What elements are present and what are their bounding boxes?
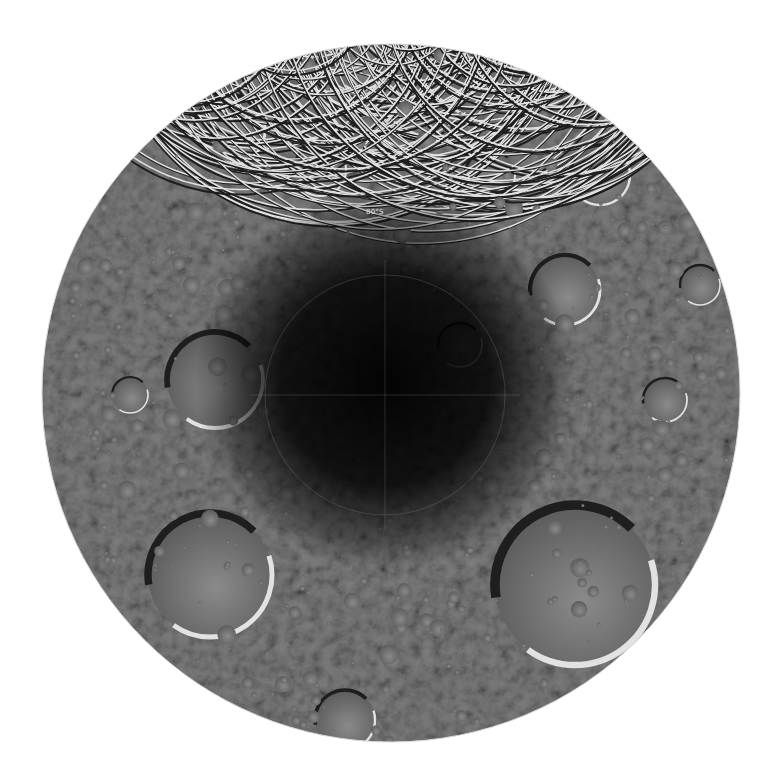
small-crater: [85, 0, 273, 87]
crater-left-mid: [112, 377, 148, 413]
small-crater: [74, 0, 289, 80]
crater-far-right: [680, 265, 720, 305]
lunar-south-pole-image: 80°S: [0, 0, 772, 772]
latitude-label: 80°S: [366, 208, 384, 216]
moon-disc: [0, 0, 772, 772]
surface-group: [0, 0, 772, 772]
small-crater: [104, 0, 232, 106]
